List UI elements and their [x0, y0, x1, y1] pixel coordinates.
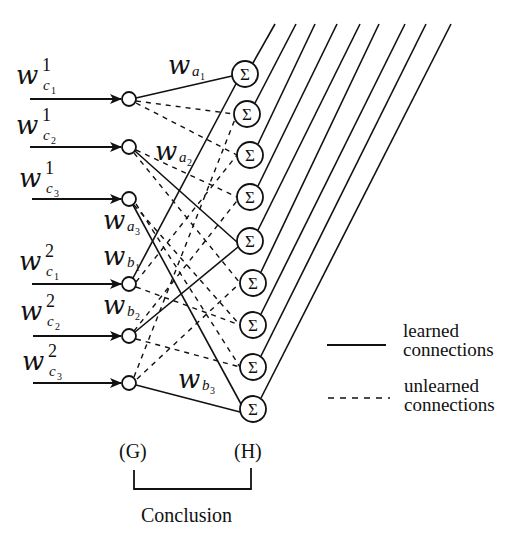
sigma-icon: Σ — [248, 358, 258, 377]
learned-connections — [133, 76, 241, 412]
input-label: w 1 c 3 — [19, 165, 41, 191]
unlearned-connections — [134, 101, 240, 379]
sigma-icon: Σ — [245, 188, 255, 207]
input-label: w 2 c 2 — [20, 298, 42, 324]
layer-label-g: (G) — [119, 440, 147, 463]
g-node — [122, 376, 136, 390]
conclusion-bracket — [134, 468, 251, 489]
sigma-icon: Σ — [248, 400, 258, 419]
legend-learned-label: learned connections — [403, 321, 494, 359]
conclusion-label: Conclusion — [141, 504, 232, 527]
sigma-icon: Σ — [248, 274, 258, 293]
sigma-icon: Σ — [245, 232, 255, 251]
g-node — [122, 140, 136, 154]
input-label: w 2 c 1 — [19, 248, 41, 274]
g-node — [122, 92, 136, 106]
layer-label-h: (H) — [234, 440, 262, 463]
weight-label-b2: w b 2 — [103, 292, 125, 318]
legend-unlearned-label: unlearned connections — [404, 376, 495, 414]
input-label: w 1 c 1 — [16, 62, 38, 88]
weight-label-a1: w a 1 — [168, 52, 190, 78]
g-node — [122, 277, 136, 291]
g-node — [122, 329, 136, 343]
sigma-icon: Σ — [248, 316, 258, 335]
network-diagram: Σ Σ Σ Σ Σ Σ Σ Σ Σ — [0, 0, 526, 535]
input-label: w 2 c 3 — [22, 348, 44, 374]
sigma-icon: Σ — [242, 105, 252, 124]
g-node — [122, 192, 136, 206]
weight-label-a2: w a 2 — [155, 138, 177, 164]
sigma-icon: Σ — [240, 65, 250, 84]
weight-label-a3: w a 3 — [103, 207, 125, 233]
weight-label-b3: w b 3 — [178, 366, 200, 392]
sigma-icon: Σ — [245, 146, 255, 165]
input-label: w 1 c 2 — [16, 112, 38, 138]
weight-label-b1: w b 1 — [103, 243, 125, 269]
